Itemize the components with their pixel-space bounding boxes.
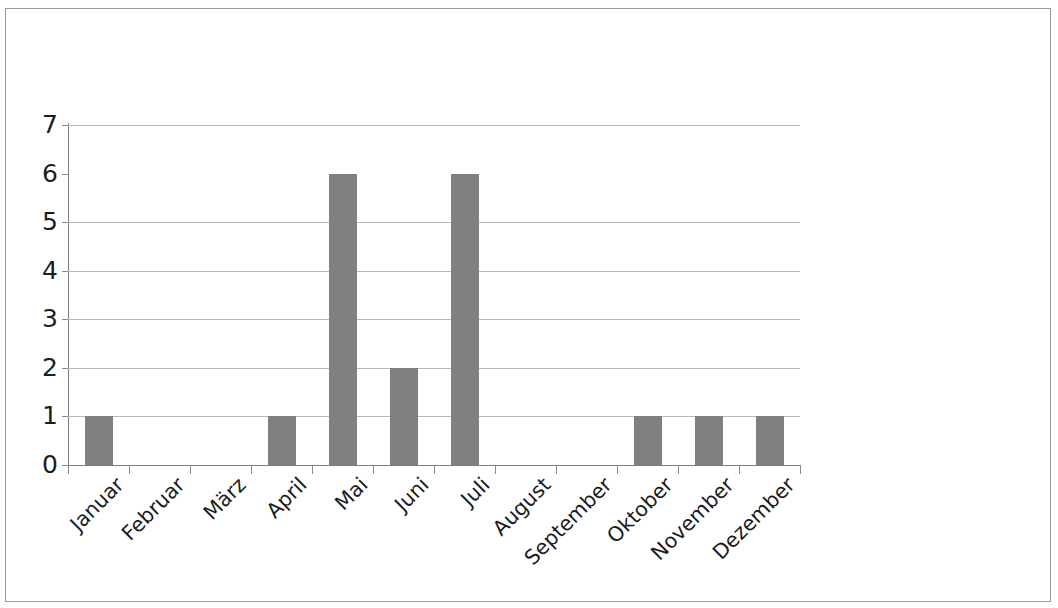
bar-chart-figure: 01234567 JanuarFebruarMärzAprilMaiJuniJu…	[0, 0, 1058, 608]
gridline	[68, 319, 800, 320]
y-axis-tick-label: 7	[18, 112, 58, 137]
x-axis-tick	[190, 465, 191, 474]
x-axis-tick	[129, 465, 130, 474]
y-axis-tick-labels: 01234567	[0, 0, 58, 608]
bar	[268, 416, 296, 465]
y-axis-tick-label: 3	[18, 306, 58, 331]
x-axis-tick	[373, 465, 374, 474]
gridline	[68, 368, 800, 369]
plot-area	[68, 125, 800, 465]
bar	[695, 416, 723, 465]
gridline	[68, 222, 800, 223]
x-axis-tick	[434, 465, 435, 474]
y-axis-tick-label: 5	[18, 209, 58, 234]
x-axis-tick	[495, 465, 496, 474]
x-axis-tick	[556, 465, 557, 474]
bar	[634, 416, 662, 465]
x-axis-tick	[312, 465, 313, 474]
x-axis-tick	[251, 465, 252, 474]
x-axis-tick	[739, 465, 740, 474]
x-axis-tick	[678, 465, 679, 474]
y-axis-tick-label: 2	[18, 355, 58, 380]
gridline	[68, 271, 800, 272]
bar	[756, 416, 784, 465]
y-axis-tick-label: 1	[18, 403, 58, 428]
gridline	[68, 416, 800, 417]
bar	[390, 368, 418, 465]
x-axis-tick	[617, 465, 618, 474]
y-axis-tick-label: 0	[18, 452, 58, 477]
bar	[329, 174, 357, 465]
y-axis-tick-label: 4	[18, 258, 58, 283]
x-axis-tick	[800, 465, 801, 474]
y-axis-tick-label: 6	[18, 161, 58, 186]
x-axis-tick	[68, 465, 69, 474]
gridline	[68, 125, 800, 126]
bar	[85, 416, 113, 465]
bar	[451, 174, 479, 465]
